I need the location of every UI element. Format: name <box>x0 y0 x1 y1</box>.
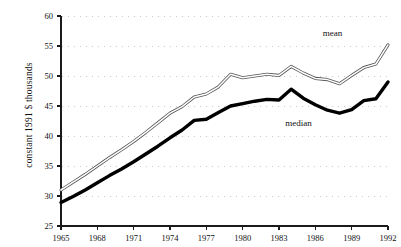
y-tick-label: 50 <box>31 71 53 81</box>
x-tick-label: 1974 <box>150 233 190 243</box>
y-tick-label: 25 <box>31 221 53 231</box>
x-tick-label: 1992 <box>368 233 401 243</box>
y-tick-label: 40 <box>31 131 53 141</box>
x-tick-label: 1971 <box>114 233 154 243</box>
mean-series-outline <box>61 45 388 190</box>
income-trend-chart: constant 1991 $ thousands 25303540455055… <box>0 0 401 247</box>
y-tick-label: 60 <box>31 11 53 21</box>
y-tick-label: 45 <box>31 101 53 111</box>
y-tick-label: 30 <box>31 191 53 201</box>
x-tick-label: 1986 <box>295 233 335 243</box>
median-series-line <box>61 82 388 203</box>
gridlines-group <box>62 16 388 196</box>
x-tick-label: 1968 <box>77 233 117 243</box>
x-tick-label: 1989 <box>332 233 372 243</box>
mean-series-line <box>61 45 388 190</box>
x-tick-label: 1965 <box>41 233 81 243</box>
x-tick-label: 1983 <box>259 233 299 243</box>
x-tick-label: 1980 <box>223 233 263 243</box>
mean-series-label: mean <box>323 28 343 38</box>
median-series-label: median <box>285 118 312 128</box>
y-tick-label: 35 <box>31 161 53 171</box>
x-tick-label: 1977 <box>186 233 226 243</box>
y-tick-label: 55 <box>31 41 53 51</box>
